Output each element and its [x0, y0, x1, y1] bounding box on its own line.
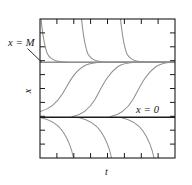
figure-container: x = M x = 0 x t: [0, 0, 192, 185]
x-equals-0-label: x = 0: [136, 105, 159, 116]
x-equals-M-label: x = M: [8, 38, 35, 49]
x-axis-label: t: [105, 167, 108, 177]
y-axis-label: x: [23, 89, 33, 94]
